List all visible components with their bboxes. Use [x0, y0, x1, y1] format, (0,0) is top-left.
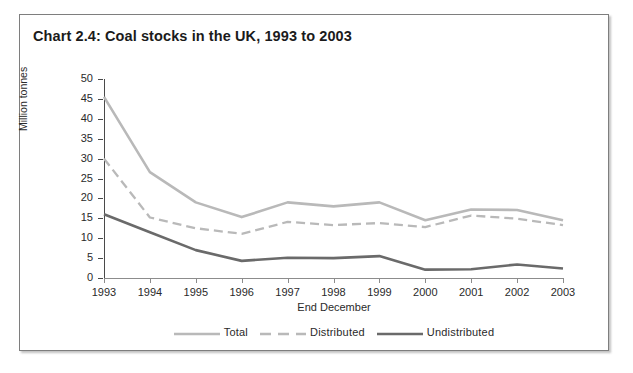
x-tick-label: 1999: [360, 286, 398, 298]
y-axis-label: Million tonnes: [17, 67, 29, 131]
y-tick-mark: [98, 139, 103, 140]
y-tick-mark: [98, 99, 103, 100]
chart-frame: Chart 2.4: Coal stocks in the UK, 1993 t…: [19, 14, 609, 351]
x-tick-mark: [471, 278, 472, 283]
plot-wrap: Million tonnes 05101520253035404550 1993…: [20, 15, 610, 352]
x-tick-mark: [517, 278, 518, 283]
legend-label: Total: [224, 326, 248, 338]
x-tick-mark: [104, 278, 105, 283]
figure-root: Chart 2.4: Coal stocks in the UK, 1993 t…: [0, 0, 633, 373]
x-tick-mark: [150, 278, 151, 283]
x-tick-label: 1998: [315, 286, 353, 298]
y-tick-label: 45: [81, 92, 93, 104]
y-tick-mark: [98, 79, 103, 80]
x-tick-mark: [288, 278, 289, 283]
y-tick-label: 0: [87, 271, 93, 283]
y-tick-label: 10: [81, 231, 93, 243]
x-tick-label: 2002: [498, 286, 536, 298]
legend-swatch-icon: [260, 326, 306, 338]
y-tick-mark: [98, 238, 103, 239]
x-tick-mark: [334, 278, 335, 283]
y-tick-mark: [98, 218, 103, 219]
y-tick-mark: [98, 119, 103, 120]
y-tick-label: 40: [81, 112, 93, 124]
legend-entry-distributed[interactable]: Distributed: [260, 326, 365, 338]
series-plot: [104, 79, 563, 278]
x-tick-label: 1994: [131, 286, 169, 298]
y-tick-mark: [98, 179, 103, 180]
x-axis-label: End December: [104, 301, 564, 313]
legend-entry-total[interactable]: Total: [174, 326, 248, 338]
legend-entry-undistributed[interactable]: Undistributed: [377, 326, 494, 338]
y-tick-label: 5: [87, 251, 93, 263]
y-tick-label: 20: [81, 191, 93, 203]
y-tick-label: 15: [81, 211, 93, 223]
y-tick-mark: [98, 278, 103, 279]
y-tick-mark: [98, 198, 103, 199]
y-tick-mark: [98, 258, 103, 259]
legend-label: Undistributed: [427, 326, 494, 338]
y-tick-label: 25: [81, 172, 93, 184]
x-tick-label: 2003: [544, 286, 582, 298]
x-tick-mark: [196, 278, 197, 283]
y-tick-label: 35: [81, 132, 93, 144]
x-tick-label: 1993: [85, 286, 123, 298]
legend-label: Distributed: [310, 326, 365, 338]
x-tick-label: 1997: [269, 286, 307, 298]
legend-swatch-icon: [174, 326, 220, 338]
y-tick-mark: [98, 159, 103, 160]
x-tick-mark: [379, 278, 380, 283]
x-tick-label: 1996: [223, 286, 261, 298]
x-tick-label: 1995: [177, 286, 215, 298]
chart-legend: TotalDistributedUndistributed: [104, 326, 564, 338]
x-tick-mark: [563, 278, 564, 283]
legend-swatch-icon: [377, 326, 423, 338]
x-tick-mark: [242, 278, 243, 283]
series-line-total: [104, 97, 563, 220]
y-tick-label: 50: [81, 72, 93, 84]
y-tick-label: 30: [81, 152, 93, 164]
x-tick-mark: [425, 278, 426, 283]
x-tick-label: 2001: [452, 286, 490, 298]
series-line-distributed: [104, 159, 563, 234]
x-tick-label: 2000: [406, 286, 444, 298]
